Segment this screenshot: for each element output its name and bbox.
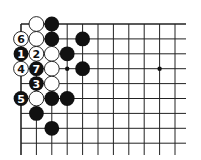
move-number: 4 [17,63,25,76]
white-stone [29,91,44,106]
black-stone [75,32,90,47]
black-stone [75,61,90,76]
white-stone [44,61,59,76]
black-stone [44,91,59,106]
black-stone: 1 [14,46,29,61]
white-stone: 6 [14,32,29,47]
black-stone [44,121,59,136]
go-board: 6124735 [0,0,201,160]
white-stone [29,17,44,32]
move-number: 3 [33,78,41,91]
white-stone [44,76,59,91]
move-number: 5 [17,93,25,106]
black-stone: 5 [14,91,29,106]
black-stone [44,32,59,47]
black-stone [44,17,59,32]
move-number: 2 [33,48,41,61]
move-number: 1 [17,48,25,61]
white-stone [44,46,59,61]
black-stone: 3 [29,76,44,91]
white-stone [29,32,44,47]
black-stone [60,46,75,61]
move-number: 6 [17,33,25,46]
star-point-icon [157,67,161,71]
board-grid [21,24,186,155]
move-number: 7 [33,63,41,76]
white-stone: 4 [14,61,29,76]
black-stone [60,91,75,106]
black-stone: 7 [29,61,44,76]
star-point-icon [65,67,69,71]
white-stone: 2 [29,46,44,61]
black-stone [29,106,44,121]
